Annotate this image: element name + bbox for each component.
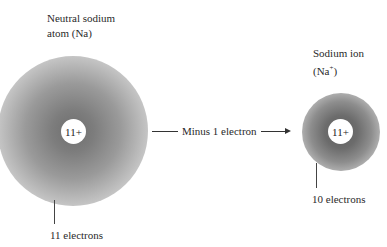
ion-title-line1: Sodium ion — [313, 46, 364, 61]
ion-electron-label: 10 electrons — [312, 192, 365, 207]
atom-title-line2: atom (Na) — [47, 26, 115, 41]
ion-title-line2: (Na+) — [313, 61, 364, 79]
ion-formula-close: ) — [333, 65, 337, 77]
ion-nucleus-charge: 11+ — [332, 126, 349, 138]
transition-arrow: Minus 1 electron — [152, 123, 291, 139]
atom-title-line1: Neutral sodium — [47, 11, 115, 26]
arrow-line-right — [261, 131, 285, 132]
arrowhead-icon — [285, 128, 291, 134]
atom-title: Neutral sodium atom (Na) — [47, 11, 115, 41]
ion-formula: (Na — [313, 65, 330, 77]
atom-nucleus-charge: 11+ — [65, 126, 82, 138]
ion-nucleus: 11+ — [328, 119, 353, 144]
ion-leader-line — [316, 163, 317, 188]
atom-nucleus: 11+ — [61, 119, 86, 144]
atom-leader-line — [54, 200, 55, 224]
arrow-line-left — [152, 131, 178, 132]
atom-electron-label: 11 electrons — [50, 228, 103, 243]
ion-title: Sodium ion (Na+) — [313, 46, 364, 79]
transition-label: Minus 1 electron — [182, 125, 257, 137]
